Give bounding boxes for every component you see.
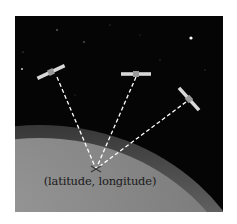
gps-scene	[0, 0, 237, 224]
gps-illustration: (latitude, longitude)	[0, 0, 237, 224]
coordinate-label: (latitude, longitude)	[40, 174, 160, 188]
